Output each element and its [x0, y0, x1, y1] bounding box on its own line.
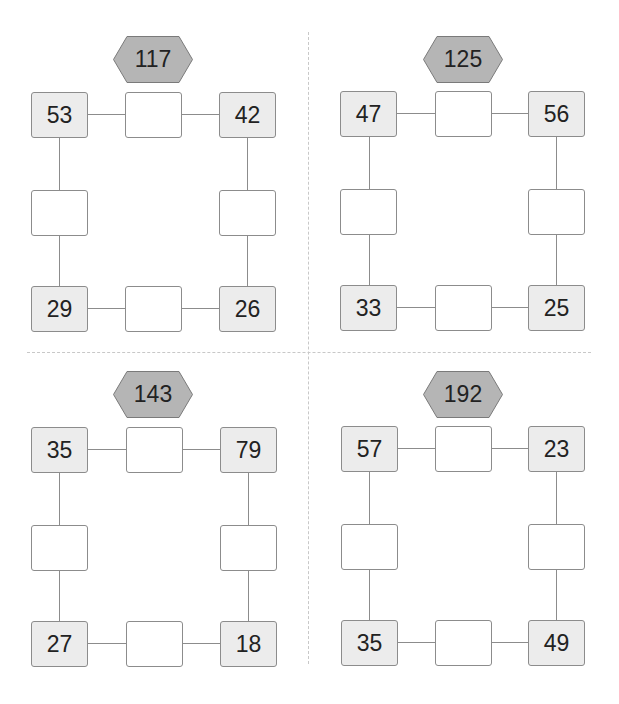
target-sum-value: 192 — [423, 371, 503, 418]
connector-line — [88, 449, 126, 450]
blank-box-bottom[interactable] — [126, 621, 183, 667]
corner-box-top-right: 56 — [528, 91, 585, 137]
connector-line — [492, 307, 528, 308]
connector-line — [369, 235, 370, 285]
blank-box-bottom[interactable] — [125, 286, 182, 332]
connector-line — [556, 570, 557, 620]
connector-line — [369, 137, 370, 189]
divider-vertical — [308, 32, 309, 664]
target-sum-hexagon: 143 — [113, 371, 193, 418]
target-sum-hexagon: 192 — [423, 371, 503, 418]
corner-box-top-left: 35 — [31, 427, 88, 473]
blank-box-left[interactable] — [31, 525, 88, 571]
blank-box-top[interactable] — [125, 92, 182, 138]
target-sum-value: 125 — [423, 36, 503, 83]
connector-line — [182, 308, 219, 309]
corner-box-top-left: 57 — [341, 426, 398, 472]
corner-box-bottom-left: 33 — [340, 285, 397, 331]
connector-line — [59, 236, 60, 286]
connector-line — [369, 570, 370, 620]
corner-box-bottom-right: 49 — [528, 620, 585, 666]
connector-line — [556, 472, 557, 524]
blank-box-bottom[interactable] — [435, 620, 492, 666]
connector-line — [59, 138, 60, 190]
connector-line — [398, 448, 435, 449]
connector-line — [369, 472, 370, 524]
blank-box-bottom[interactable] — [435, 285, 492, 331]
blank-box-top[interactable] — [126, 427, 183, 473]
blank-box-right[interactable] — [220, 525, 277, 571]
blank-box-top[interactable] — [435, 91, 492, 137]
connector-line — [182, 114, 219, 115]
divider-horizontal — [27, 352, 591, 353]
connector-line — [59, 473, 60, 525]
corner-box-bottom-left: 29 — [31, 286, 88, 332]
corner-box-bottom-left: 27 — [31, 621, 88, 667]
connector-line — [492, 113, 528, 114]
connector-line — [556, 137, 557, 189]
target-sum-value: 117 — [113, 36, 193, 83]
corner-box-top-right: 79 — [220, 427, 277, 473]
connector-line — [492, 642, 528, 643]
corner-box-bottom-right: 26 — [219, 286, 276, 332]
connector-line — [88, 643, 126, 644]
blank-box-left[interactable] — [340, 189, 397, 235]
blank-box-top[interactable] — [435, 426, 492, 472]
connector-line — [492, 448, 528, 449]
corner-box-bottom-right: 25 — [528, 285, 585, 331]
connector-line — [59, 571, 60, 621]
corner-box-top-right: 42 — [219, 92, 276, 138]
blank-box-right[interactable] — [528, 189, 585, 235]
blank-box-left[interactable] — [341, 524, 398, 570]
connector-line — [556, 235, 557, 285]
connector-line — [183, 449, 220, 450]
corner-box-top-right: 23 — [528, 426, 585, 472]
connector-line — [248, 571, 249, 621]
connector-line — [88, 308, 125, 309]
target-sum-hexagon: 125 — [423, 36, 503, 83]
connector-line — [397, 113, 435, 114]
connector-line — [397, 307, 435, 308]
target-sum-value: 143 — [113, 371, 193, 418]
corner-box-top-left: 47 — [340, 91, 397, 137]
corner-box-bottom-left: 35 — [341, 620, 398, 666]
connector-line — [247, 236, 248, 286]
blank-box-right[interactable] — [219, 190, 276, 236]
corner-box-bottom-right: 18 — [220, 621, 277, 667]
blank-box-right[interactable] — [528, 524, 585, 570]
blank-box-left[interactable] — [31, 190, 88, 236]
connector-line — [247, 138, 248, 190]
connector-line — [398, 642, 435, 643]
target-sum-hexagon: 117 — [113, 36, 193, 83]
corner-box-top-left: 53 — [31, 92, 88, 138]
connector-line — [248, 473, 249, 525]
connector-line — [183, 643, 220, 644]
connector-line — [88, 114, 125, 115]
